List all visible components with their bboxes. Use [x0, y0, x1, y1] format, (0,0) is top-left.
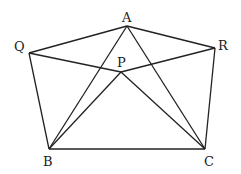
label-Q: Q [14, 39, 25, 54]
label-C: C [204, 154, 214, 169]
label-B: B [43, 154, 53, 169]
segment-PR [121, 48, 215, 72]
segments [29, 26, 215, 149]
label-A: A [121, 10, 132, 25]
segment-QB [29, 53, 49, 149]
segment-AR [127, 26, 215, 48]
segment-QP [29, 53, 121, 72]
segment-RC [205, 48, 215, 149]
geometry-diagram: A Q R P B C [0, 0, 241, 174]
label-R: R [218, 38, 229, 53]
segment-BP [49, 72, 121, 149]
label-P: P [117, 55, 126, 70]
